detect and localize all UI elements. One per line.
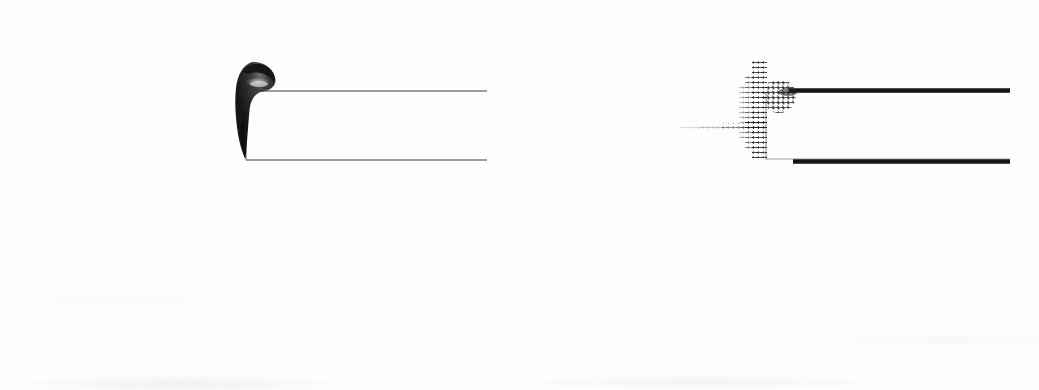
plastic-zone-contour	[235, 62, 275, 159]
vector-tail-left	[680, 121, 767, 132]
panel-right-crack-faces	[789, 91, 1010, 162]
panel-left	[0, 0, 520, 390]
figure-root: (a) (b) Crack-tip deformation field	[0, 0, 1039, 390]
panel-left-crack-faces	[246, 91, 487, 160]
tip-shadow	[778, 88, 798, 96]
panel-right	[520, 0, 1039, 390]
